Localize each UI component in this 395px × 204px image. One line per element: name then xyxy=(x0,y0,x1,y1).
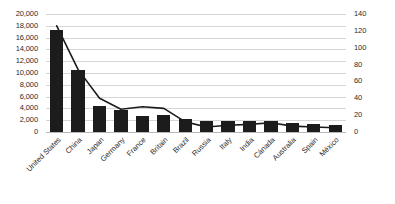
gridline xyxy=(46,132,346,133)
x-axis-category-labels: United StatesChinaJapanGermanyFranceBrit… xyxy=(46,134,346,204)
category-label-slot: Russia xyxy=(196,134,217,204)
y-axis-left-tick: 20,000 xyxy=(16,10,38,18)
y-axis-left-tick: 18,000 xyxy=(16,22,38,30)
y-axis-right-tick: 40 xyxy=(354,95,362,103)
category-label: Italy xyxy=(218,136,233,151)
y-axis-right-tick: 140 xyxy=(354,10,366,18)
y-axis-left-tick: 10,000 xyxy=(16,69,38,77)
y-axis-right-tick: 120 xyxy=(354,27,366,35)
category-label-slot: Britain xyxy=(153,134,174,204)
y-axis-left-tick: 2,000 xyxy=(20,116,38,124)
combo-chart: 02,0004,0006,0008,00010,00012,00014,0001… xyxy=(0,0,395,204)
category-label-slot: Japan xyxy=(89,134,110,204)
category-label-slot: United States xyxy=(46,134,67,204)
y-axis-right-tick: 80 xyxy=(354,61,362,69)
y-axis-left-tick: 6,000 xyxy=(20,93,38,101)
y-axis-left-tick: 0 xyxy=(34,128,38,136)
category-label: China xyxy=(64,136,83,155)
category-label-slot: México xyxy=(325,134,346,204)
y-axis-right-tick: 20 xyxy=(354,111,362,119)
line-path xyxy=(57,26,336,128)
category-label-slot: Germany xyxy=(110,134,131,204)
category-label-slot: Italy xyxy=(217,134,238,204)
y-axis-left: 02,0004,0006,0008,00010,00012,00014,0001… xyxy=(0,14,42,132)
y-axis-right-tick: 0 xyxy=(354,128,358,136)
y-axis-left-tick: 16,000 xyxy=(16,34,38,42)
category-label-slot: Cánada xyxy=(260,134,281,204)
category-label-slot: Brazil xyxy=(175,134,196,204)
category-label: India xyxy=(238,136,255,153)
y-axis-right-tick: 60 xyxy=(354,78,362,86)
category-label-slot: Australia xyxy=(282,134,303,204)
plot-area xyxy=(46,14,346,132)
category-label-slot: Spain xyxy=(303,134,324,204)
category-label-slot: France xyxy=(132,134,153,204)
category-label: Brazil xyxy=(172,136,191,155)
category-label-slot: India xyxy=(239,134,260,204)
y-axis-left-tick: 4,000 xyxy=(20,105,38,113)
y-axis-left-tick: 14,000 xyxy=(16,46,38,54)
y-axis-right: 020406080100120140 xyxy=(350,14,394,132)
category-label: United States xyxy=(25,136,62,173)
category-label: Spain xyxy=(300,136,319,155)
category-label-slot: China xyxy=(67,134,88,204)
y-axis-left-tick: 12,000 xyxy=(16,57,38,65)
y-axis-right-tick: 100 xyxy=(354,44,366,52)
line-series xyxy=(46,14,346,132)
y-axis-left-tick: 8,000 xyxy=(20,81,38,89)
